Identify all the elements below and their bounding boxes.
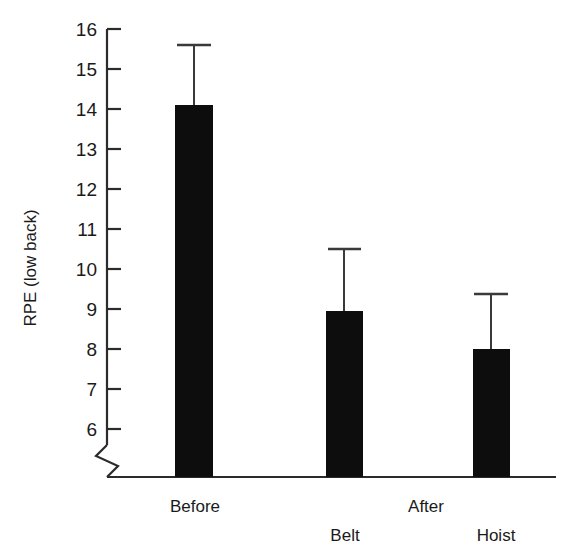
x-label-belt: Belt (330, 526, 360, 545)
x-label-after: After (408, 497, 444, 516)
bar-belt[interactable] (326, 311, 363, 477)
y-tick-label-9: 9 (86, 299, 97, 320)
bar-chart-canvas: 16 15 14 13 12 11 10 9 8 7 6 RPE (low ba… (0, 0, 568, 558)
y-tick-label-13: 13 (76, 139, 97, 160)
bar-group-belt[interactable] (326, 249, 363, 477)
y-axis-break-icon (96, 445, 118, 477)
y-tick-label-8: 8 (86, 339, 97, 360)
y-tick-label-14: 14 (76, 99, 98, 120)
bar-before[interactable] (175, 105, 213, 477)
y-tick-label-11: 11 (77, 219, 97, 240)
chart-figure: 16 15 14 13 12 11 10 9 8 7 6 RPE (low ba… (0, 0, 568, 558)
y-tick-label-10: 10 (76, 259, 97, 280)
y-axis: 16 15 14 13 12 11 10 9 8 7 6 (76, 19, 121, 477)
bar-group-hoist[interactable] (473, 294, 510, 477)
bar-hoist[interactable] (473, 349, 510, 477)
y-tick-label-6: 6 (86, 419, 97, 440)
bar-group-before[interactable] (175, 45, 213, 477)
y-tick-label-7: 7 (86, 379, 97, 400)
y-axis-title: RPE (low back) (21, 209, 40, 326)
y-tick-label-16: 16 (76, 19, 97, 40)
x-label-before: Before (170, 497, 220, 516)
y-tick-label-15: 15 (76, 59, 97, 80)
x-label-hoist: Hoist (477, 526, 516, 545)
y-tick-label-12: 12 (76, 179, 97, 200)
